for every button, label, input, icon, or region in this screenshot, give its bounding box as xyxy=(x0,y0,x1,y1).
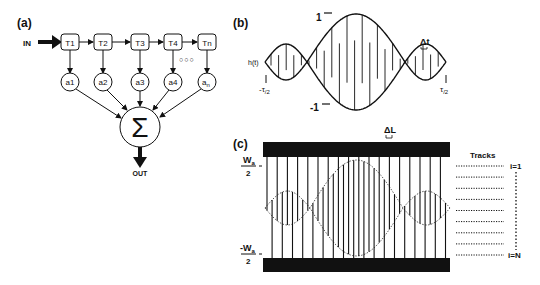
figure: (a) IN T1 T2 T3 T4 Tn xyxy=(0,0,540,285)
delay-tap-Tn: Tn xyxy=(198,34,216,50)
svg-text:Wa: Wa xyxy=(243,155,256,166)
delay-tap-T1: T1 xyxy=(61,34,79,50)
bottom-aperture-label: -Wa 2 xyxy=(240,243,262,266)
x-right-label: τ/2 xyxy=(440,85,449,95)
panel-a-label: (a) xyxy=(17,16,32,30)
delta-l-label: ΔL xyxy=(384,125,396,135)
output-label: OUT xyxy=(133,170,149,177)
panel-b-impulse-response: (b) h(t) 1 -1 -τ/2 τ/2 Δt xyxy=(233,12,449,113)
svg-text:a4: a4 xyxy=(169,78,178,87)
svg-text:T3: T3 xyxy=(135,39,145,48)
input-arrow xyxy=(38,35,62,49)
panel-c-transducer: (c) ΔL Wa 2 -Wa 2 Tracks i=1 i=N xyxy=(233,125,522,272)
track-first-label: i=1 xyxy=(510,162,522,171)
top-bus-bar xyxy=(263,142,450,157)
top-aperture-label: Wa 2 xyxy=(241,155,262,178)
svg-text:2: 2 xyxy=(246,257,251,266)
weight-a2: a2 xyxy=(94,73,112,91)
y-max-label: 1 xyxy=(316,12,322,23)
electrode-array xyxy=(265,157,450,258)
svg-text:T2: T2 xyxy=(98,39,108,48)
function-label: h(t) xyxy=(248,59,259,67)
weight-an: an xyxy=(198,73,216,91)
envelope-plot xyxy=(265,14,446,110)
panel-c-label: (c) xyxy=(233,137,248,151)
svg-text:a1: a1 xyxy=(66,78,75,87)
weight-a4: a4 xyxy=(164,73,182,91)
svg-text:a3: a3 xyxy=(136,78,145,87)
output-arrow xyxy=(133,147,147,168)
input-label: IN xyxy=(23,39,31,48)
svg-text:Σ: Σ xyxy=(131,112,148,143)
svg-text:T4: T4 xyxy=(168,39,178,48)
bottom-bus-bar xyxy=(263,258,450,272)
delay-tap-T2: T2 xyxy=(94,34,112,50)
panel-a-fir-filter: (a) IN T1 T2 T3 T4 Tn xyxy=(17,16,216,177)
svg-text:a2: a2 xyxy=(99,78,108,87)
weight-a1: a1 xyxy=(61,73,79,91)
svg-text:T1: T1 xyxy=(65,39,75,48)
delay-tap-T3: T3 xyxy=(131,34,149,50)
panel-b-label: (b) xyxy=(233,16,248,30)
svg-text:Tn: Tn xyxy=(202,39,211,48)
track-lines xyxy=(456,166,504,255)
weight-a3: a3 xyxy=(131,73,149,91)
track-last-label: i=N xyxy=(508,251,521,260)
delta-t-label: Δt xyxy=(420,37,429,47)
summation-node: Σ xyxy=(120,107,160,147)
y-min-label: -1 xyxy=(310,102,319,113)
delay-tap-T4: T4 xyxy=(164,34,182,50)
svg-text:2: 2 xyxy=(246,169,251,178)
svg-text:-Wa: -Wa xyxy=(240,243,256,254)
ellipsis-dots: ○○○ xyxy=(179,56,195,63)
x-left-label: -τ/2 xyxy=(259,85,270,95)
tracks-title: Tracks xyxy=(470,151,496,160)
